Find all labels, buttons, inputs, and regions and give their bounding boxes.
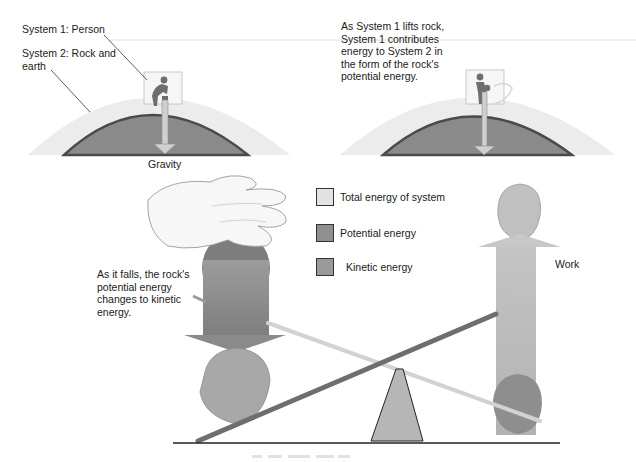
legend-item-potential-energy: Potential energy [316, 224, 416, 242]
right-arrow-shaft [482, 92, 487, 147]
legend-label: Kinetic energy [346, 261, 413, 273]
kinetic-energy-swatch [316, 258, 334, 276]
gravity-label: Gravity [148, 158, 181, 171]
falling-caption: As it falls, the rock's potential energy… [97, 268, 189, 318]
work-label: Work [555, 258, 579, 271]
right-earth-panel [340, 70, 615, 155]
gravity-arrow-shaft [162, 100, 168, 145]
legend-item-total-energy: Total energy of system [316, 188, 445, 206]
total-energy-swatch [316, 188, 334, 206]
right-caption: As System 1 lifts rock, System 1 contrib… [341, 20, 444, 83]
hand-icon [148, 176, 286, 248]
bleed-through-text [252, 455, 350, 458]
work-arrow-head [478, 234, 561, 247]
legend-label: Total energy of system [340, 191, 445, 203]
legend-label: Potential energy [340, 227, 416, 239]
potential-energy-swatch [316, 224, 334, 242]
potential-energy-arrow-shaft [203, 260, 269, 336]
fulcrum [371, 369, 423, 441]
lifted-rock [498, 184, 541, 240]
work-column [478, 184, 561, 435]
system1-label: System 1: Person [22, 23, 105, 36]
legend-item-kinetic-energy: Kinetic energy [316, 258, 413, 276]
system2-label: System 2: Rock and earth [22, 47, 116, 72]
system2-leader-line [51, 70, 90, 112]
